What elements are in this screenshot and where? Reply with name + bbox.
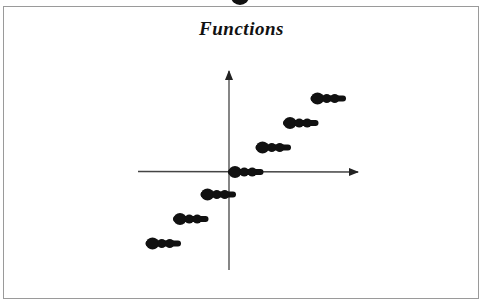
step-segment	[284, 117, 316, 129]
step-segment	[201, 189, 233, 201]
plot-area	[0, 0, 483, 305]
step-segment	[311, 93, 343, 105]
step-segment	[174, 213, 206, 225]
step-segment	[229, 166, 261, 178]
closed-endpoint-dot	[174, 213, 187, 225]
closed-endpoint-dot	[201, 189, 214, 201]
closed-endpoint-dot	[256, 142, 269, 154]
closed-endpoint-dot	[146, 238, 159, 250]
closed-endpoint-dot	[229, 166, 242, 178]
closed-endpoint-dot	[311, 93, 324, 105]
step-segment	[146, 238, 178, 250]
closed-endpoint-dot	[284, 117, 297, 129]
step-segment	[256, 142, 288, 154]
